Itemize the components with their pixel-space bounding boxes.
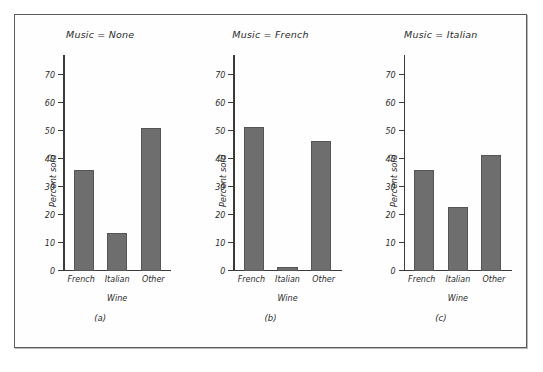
y-tick-30-c xyxy=(399,186,404,187)
x-label-italian-b: Italian xyxy=(269,275,305,289)
bar-slot-other-b xyxy=(304,61,337,271)
chart-panel-a: Music = None Percent sold 01020304050607… xyxy=(15,15,185,347)
panel-caption-c: (c) xyxy=(356,313,526,323)
x-label-french-b: French xyxy=(233,275,269,289)
y-tick-40-a xyxy=(58,158,63,159)
bar-other-a xyxy=(141,128,161,271)
y-tick-20-b xyxy=(228,214,233,215)
y-tick-10-a xyxy=(58,242,63,243)
plot-area-b: 010203040506070 xyxy=(233,61,341,271)
bar-slot-italian-c xyxy=(441,61,474,271)
bar-group-c xyxy=(408,61,508,271)
y-tick-30-a xyxy=(58,186,63,187)
y-tick-label-50-b: 50 xyxy=(215,127,225,136)
y-tick-10-b xyxy=(228,242,233,243)
y-tick-label-50-c: 50 xyxy=(385,127,395,136)
y-tick-label-60-a: 60 xyxy=(45,99,55,108)
y-tick-label-70-a: 70 xyxy=(45,71,55,80)
y-axis-line-b xyxy=(233,55,235,271)
y-tick-0-c xyxy=(399,270,404,271)
x-label-italian-c: Italian xyxy=(440,275,476,289)
bar-slot-other-c xyxy=(475,61,508,271)
panel-caption-a: (a) xyxy=(15,313,185,323)
y-tick-60-b xyxy=(228,102,233,103)
y-tick-0-b xyxy=(228,270,233,271)
y-tick-50-a xyxy=(58,130,63,131)
x-axis-label-c: Wine xyxy=(404,294,512,303)
x-axis-label-a: Wine xyxy=(63,294,171,303)
y-tick-10-c xyxy=(399,242,404,243)
bar-group-a xyxy=(67,61,167,271)
bar-other-b xyxy=(311,141,331,271)
y-tick-20-c xyxy=(399,214,404,215)
y-tick-label-40-b: 40 xyxy=(215,155,225,164)
bar-slot-italian-a xyxy=(100,61,133,271)
y-tick-label-30-b: 30 xyxy=(215,183,225,192)
bar-slot-other-a xyxy=(134,61,167,271)
y-tick-40-b xyxy=(228,158,233,159)
bar-slot-french-c xyxy=(408,61,441,271)
x-label-other-b: Other xyxy=(306,275,342,289)
bar-french-c xyxy=(414,170,434,271)
y-tick-label-40-a: 40 xyxy=(45,155,55,164)
y-tick-label-0-a: 0 xyxy=(50,267,55,276)
y-tick-label-20-b: 20 xyxy=(215,211,225,220)
x-tick-labels-b: French Italian Other xyxy=(233,275,341,289)
y-tick-50-b xyxy=(228,130,233,131)
y-tick-60-a xyxy=(58,102,63,103)
y-tick-label-30-a: 30 xyxy=(45,183,55,192)
y-tick-label-10-b: 10 xyxy=(215,239,225,248)
y-tick-30-b xyxy=(228,186,233,187)
y-tick-label-10-c: 10 xyxy=(385,239,395,248)
panel-title-c: Music = Italian xyxy=(356,29,526,40)
x-tick-labels-c: French Italian Other xyxy=(404,275,512,289)
panel-caption-b: (b) xyxy=(185,313,355,323)
bar-group-b xyxy=(237,61,337,271)
y-tick-70-c xyxy=(399,74,404,75)
bar-italian-b xyxy=(277,267,297,271)
y-tick-70-b xyxy=(228,74,233,75)
y-tick-label-70-c: 70 xyxy=(385,71,395,80)
chart-panel-c: Music = Italian Percent sold 01020304050… xyxy=(356,15,526,347)
panel-row: Music = None Percent sold 01020304050607… xyxy=(15,15,526,347)
y-tick-label-30-c: 30 xyxy=(385,183,395,192)
panel-title-a: Music = None xyxy=(15,29,185,40)
x-axis-label-b: Wine xyxy=(233,294,341,303)
y-tick-40-c xyxy=(399,158,404,159)
bar-slot-french-b xyxy=(237,61,270,271)
y-tick-label-0-c: 0 xyxy=(391,267,396,276)
plot-area-c: 010203040506070 xyxy=(404,61,512,271)
y-tick-label-50-a: 50 xyxy=(45,127,55,136)
x-tick-labels-a: French Italian Other xyxy=(63,275,171,289)
y-tick-label-70-b: 70 xyxy=(215,71,225,80)
plot-area-a: 010203040506070 xyxy=(63,61,171,271)
y-tick-label-0-b: 0 xyxy=(220,267,225,276)
panel-title-b: Music = French xyxy=(185,29,355,40)
y-tick-60-c xyxy=(399,102,404,103)
x-label-italian-a: Italian xyxy=(99,275,135,289)
x-label-other-a: Other xyxy=(135,275,171,289)
y-tick-0-a xyxy=(58,270,63,271)
x-label-french-c: French xyxy=(404,275,440,289)
bar-other-c xyxy=(481,155,501,271)
y-tick-label-10-a: 10 xyxy=(45,239,55,248)
y-tick-label-20-c: 20 xyxy=(385,211,395,220)
y-tick-label-40-c: 40 xyxy=(385,155,395,164)
y-tick-70-a xyxy=(58,74,63,75)
y-tick-50-c xyxy=(399,130,404,131)
chart-panel-b: Music = French Percent sold 010203040506… xyxy=(185,15,355,347)
bar-slot-french-a xyxy=(67,61,100,271)
bar-french-b xyxy=(244,127,264,271)
figure-frame: Music = None Percent sold 01020304050607… xyxy=(14,14,527,348)
y-tick-20-a xyxy=(58,214,63,215)
x-label-other-c: Other xyxy=(476,275,512,289)
y-axis-line-c xyxy=(404,55,406,271)
y-tick-label-20-a: 20 xyxy=(45,211,55,220)
bar-italian-a xyxy=(107,233,127,271)
bar-italian-c xyxy=(448,207,468,271)
y-tick-label-60-b: 60 xyxy=(215,99,225,108)
x-label-french-a: French xyxy=(63,275,99,289)
y-tick-label-60-c: 60 xyxy=(385,99,395,108)
bar-slot-italian-b xyxy=(271,61,304,271)
bar-french-a xyxy=(74,170,94,271)
